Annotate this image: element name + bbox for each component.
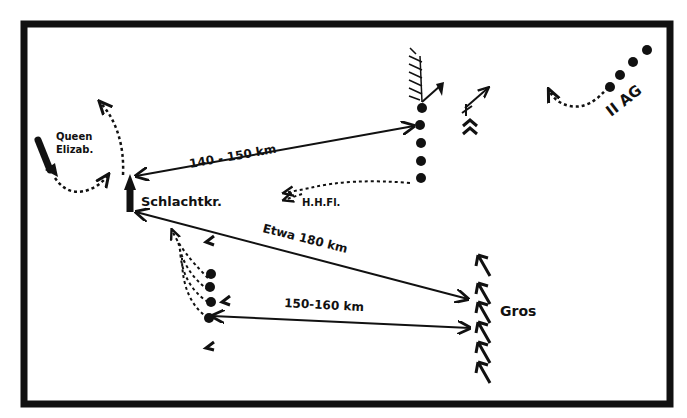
map-frame (24, 24, 670, 404)
label-gros: Gros (500, 303, 536, 319)
lower-left-group (172, 230, 230, 350)
label-hhfl: H.H.Fl. (302, 197, 340, 208)
distance-line-lower (212, 316, 470, 328)
label-schlachtkr: Schlachtkr. (141, 194, 222, 209)
label-dist-diagonal: Etwa 180 km (261, 221, 349, 256)
label-queen: QueenElizab. (56, 131, 93, 155)
label-dist-upper: 140 - 150 km (188, 142, 277, 171)
main-fleet-group: Gros (476, 255, 536, 383)
scout-group (462, 88, 488, 134)
distance-line-diagonal (136, 212, 468, 299)
queen-elizabeth-group: QueenElizab. (38, 131, 108, 192)
dotted-track (100, 102, 123, 175)
ii-ag-group: II AG (549, 45, 652, 120)
label-dist-lower: 150-160 km (284, 296, 364, 314)
upper-column-group: H.H.Fl. (284, 48, 444, 208)
diagram-canvas: QueenElizab. Schlachtkr. 140 - 150 km Et… (0, 0, 687, 418)
dotted-track (55, 175, 108, 192)
dotted-track (284, 181, 410, 193)
ship-cluster-icon (415, 103, 427, 183)
ship-arrow-icon (38, 140, 50, 170)
dotted-track (549, 87, 608, 107)
